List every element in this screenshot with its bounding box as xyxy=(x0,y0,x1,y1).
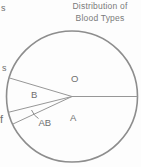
slice-label-a: A xyxy=(70,112,77,123)
slice-label-o: O xyxy=(71,73,78,84)
cropped-text-fragment-bottom: f xyxy=(0,113,3,125)
chart-title-line2: Blood Types xyxy=(58,13,141,25)
cropped-text-fragment-top: s xyxy=(1,4,6,13)
slice-boundary-line xyxy=(8,97,72,113)
slice-label-b: B xyxy=(31,89,37,100)
screenshot-root: O B AB A Distribution of Blood Types s s… xyxy=(0,0,141,167)
slice-boundary-line xyxy=(9,78,72,97)
chart-title-line1: Distribution of xyxy=(58,1,141,13)
cropped-text-fragment-middle: s xyxy=(2,64,7,73)
chart-title: Distribution of Blood Types xyxy=(58,1,141,24)
slice-label-ab: AB xyxy=(39,117,52,128)
pie-chart: O B AB A xyxy=(0,0,141,167)
